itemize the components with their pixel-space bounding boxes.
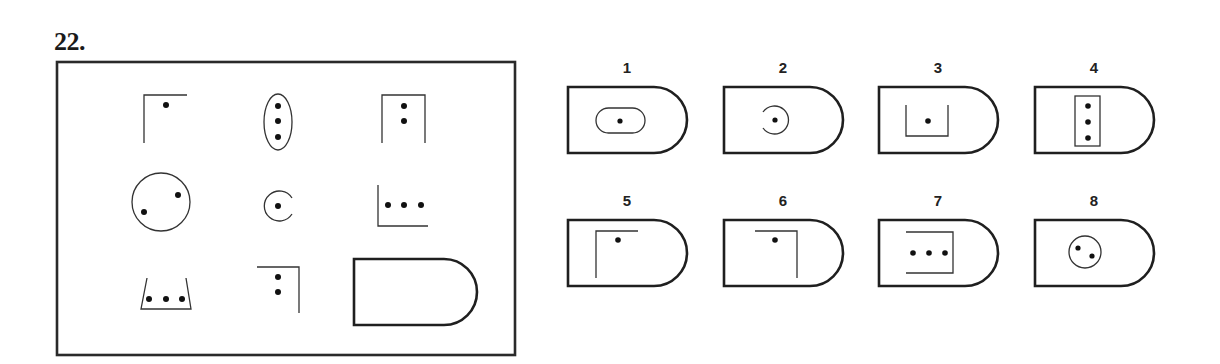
option-7[interactable] (879, 220, 998, 286)
answer-slot (354, 259, 477, 325)
matrix-cell-r2c3 (378, 185, 428, 226)
matrix-cell-r2c1 (132, 173, 190, 231)
matrix-cell-r1c1 (144, 95, 187, 143)
matrix-cell-r2c2 (264, 191, 292, 221)
option-4[interactable] (1035, 87, 1154, 153)
matrix-cell-r1c3 (382, 95, 425, 143)
matrix-cell-r3c2 (257, 267, 299, 313)
matrix-cell-r3c1 (141, 278, 191, 309)
puzzle-canvas (0, 0, 1220, 364)
option-1[interactable] (568, 87, 687, 153)
option-8[interactable] (1035, 220, 1154, 286)
option-2[interactable] (724, 87, 843, 153)
matrix-cell-r1c2 (264, 94, 292, 150)
option-6[interactable] (724, 220, 843, 286)
option-3[interactable] (879, 87, 998, 153)
matrix-frame (57, 62, 515, 355)
option-5[interactable] (568, 220, 687, 286)
